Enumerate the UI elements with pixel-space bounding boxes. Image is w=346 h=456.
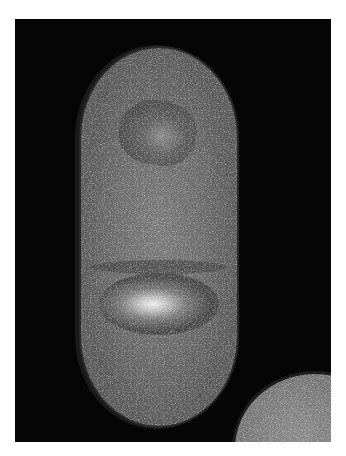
rod-shaped-cell <box>81 48 237 426</box>
cytoplasm-texture <box>235 374 331 442</box>
cytoplasm-texture <box>81 48 237 426</box>
partial-adjacent-cell <box>235 374 331 442</box>
micrograph-frame <box>15 19 331 442</box>
